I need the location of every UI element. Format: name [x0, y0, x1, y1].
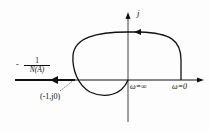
real-axis-arrow-icon [197, 78, 204, 83]
neg-inverse-df-arrow-icon [50, 76, 58, 84]
imag-axis-label: j [137, 8, 140, 18]
nyquist-direction-arrow-icon [134, 29, 141, 35]
neg-inverse-df-denominator: N(A) [22, 66, 52, 74]
neg-inverse-df-label: 1 N(A) [22, 57, 52, 74]
nyquist-diagram: j - 1 N(A) (-1,j0) ω=∞ ω=0 [0, 0, 210, 131]
omega-zero-label: ω=0 [172, 82, 187, 91]
imag-axis-arrow-icon [126, 12, 131, 19]
critical-point-leader [60, 80, 74, 91]
neg-inverse-df-numerator: 1 [22, 57, 52, 65]
omega-infinity-label: ω=∞ [130, 82, 147, 91]
nyquist-curve [73, 32, 181, 95]
neg-inverse-df-sign: - [16, 60, 19, 69]
critical-point-label: (-1,j0) [40, 92, 60, 101]
